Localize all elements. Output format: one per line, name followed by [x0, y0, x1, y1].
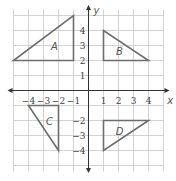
- y-tick-label: −2: [72, 116, 85, 126]
- x-tick-label: −2: [52, 96, 65, 106]
- x-tick-label: 3: [131, 96, 137, 106]
- arrow-left-icon: [8, 88, 13, 93]
- y-tick-label: 3: [80, 41, 86, 51]
- coordinate-plane: ABCD −4−3−2−112344321−2−3−4xy: [0, 0, 176, 181]
- x-tick-label: 1: [101, 96, 107, 106]
- tick-labels: −4−3−2−112344321−2−3−4xy: [22, 5, 173, 156]
- x-tick-label: −4: [22, 96, 36, 106]
- y-tick-label: −3: [72, 131, 86, 141]
- triangle-label: A: [50, 41, 58, 52]
- y-tick-label: 4: [80, 26, 86, 36]
- y-axis-label: y: [93, 5, 101, 16]
- y-tick-label: 1: [80, 71, 86, 81]
- triangle-label: B: [116, 46, 123, 57]
- y-tick-label: 2: [80, 56, 86, 66]
- triangle-label: C: [46, 116, 53, 127]
- y-tick-label: −4: [72, 146, 86, 156]
- triangle-label: D: [116, 126, 124, 137]
- arrow-down-icon: [86, 168, 91, 173]
- x-axis-label: x: [166, 95, 173, 106]
- arrow-right-icon: [165, 88, 170, 93]
- x-tick-label: −1: [67, 96, 80, 106]
- x-tick-label: −3: [37, 96, 51, 106]
- arrow-up-icon: [86, 5, 91, 10]
- x-tick-label: 4: [146, 96, 152, 106]
- x-tick-label: 2: [116, 96, 122, 106]
